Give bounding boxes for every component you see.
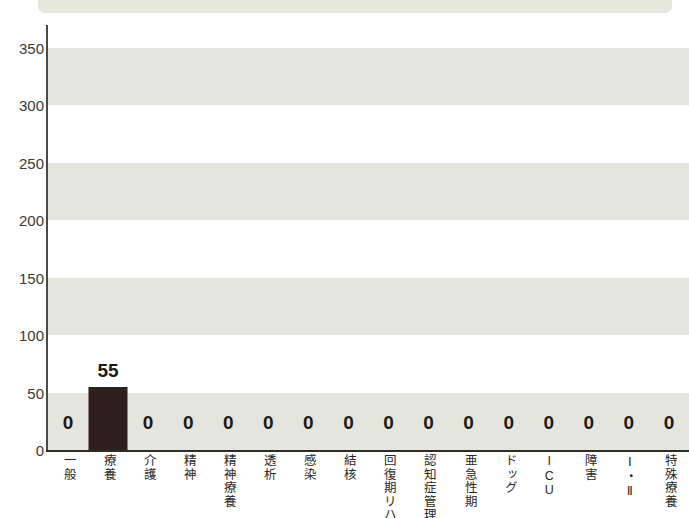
x-category-label: ドッグ [502,454,515,518]
bar-value-label: 0 [223,413,234,432]
bar-slot: 55 [88,0,128,452]
x-category-label: 感染 [302,454,315,518]
bar-slot: 0 [529,0,569,452]
bar-slot: 0 [449,0,489,452]
x-label-slot: 認知症管理 [409,454,449,518]
y-tick-label: 100 [0,327,44,344]
bar-value-label: 0 [543,413,554,432]
bar-slot: 0 [409,0,449,452]
y-tick-label: 150 [0,269,44,286]
x-label-slot: 結核 [328,454,368,518]
x-category-label: 介護 [142,454,155,518]
x-label-slot: 感染 [288,454,328,518]
bar-slot: 0 [489,0,529,452]
bar-slot: 0 [208,0,248,452]
bar-slot: 0 [609,0,649,452]
x-category-label: 結核 [342,454,355,518]
x-category-label: 精神療養 [222,454,235,518]
bar-value-label: 0 [63,413,74,432]
bar-value-label: 0 [143,413,154,432]
bar-slot: 0 [288,0,328,452]
bar-value-label: 55 [98,361,119,380]
x-category-label: 回復期リハ [382,454,395,518]
y-tick-label: 50 [0,384,44,401]
x-label-slot: 精神 [168,454,208,518]
bar-value-label: 0 [664,413,675,432]
x-category-label: 精神 [182,454,195,518]
bar-slot: 0 [48,0,88,452]
bar-value-label: 0 [584,413,595,432]
y-axis-ticks: 050100150200250300350 [0,0,44,518]
x-category-label: 亜急性期 [462,454,475,518]
bar-value-label: 0 [263,413,274,432]
bar-value-label: 0 [624,413,635,432]
y-tick-label: 250 [0,154,44,171]
bar-series: 05500000000000000 [48,0,689,452]
x-label-slot: 特殊療養 [649,454,689,518]
x-label-slot: 透析 [248,454,288,518]
bar-slot: 0 [328,0,368,452]
x-label-slot: 一般 [48,454,88,518]
x-category-label: 特殊療養 [663,454,676,518]
x-category-label: 透析 [262,454,275,518]
x-label-slot: ICU [529,454,569,518]
bar-slot: 0 [369,0,409,452]
bar-slot: 0 [128,0,168,452]
x-label-slot: 亜急性期 [449,454,489,518]
x-label-slot: 精神療養 [208,454,248,518]
x-label-slot: 療養 [88,454,128,518]
y-tick-label: 200 [0,212,44,229]
y-tick-label: 350 [0,39,44,56]
bar-slot: 0 [248,0,288,452]
x-category-label: 認知症管理 [422,454,435,518]
bar-value-label: 0 [423,413,434,432]
bar-chart: 050100150200250300350 05500000000000000 … [0,0,689,518]
bar-value-label: 0 [303,413,314,432]
bar [89,387,128,450]
x-label-slot: 障害 [569,454,609,518]
x-label-slot: 回復期リハ [369,454,409,518]
bar-value-label: 0 [183,413,194,432]
bar-slot: 0 [649,0,689,452]
bar-value-label: 0 [343,413,354,432]
x-category-label: Ⅰ・Ⅱ [623,454,636,518]
bar-slot: 0 [168,0,208,452]
x-label-slot: 介護 [128,454,168,518]
x-category-label: 障害 [582,454,595,518]
bar-value-label: 0 [463,413,474,432]
bar-slot: 0 [569,0,609,452]
bar-value-label: 0 [383,413,394,432]
x-label-slot: Ⅰ・Ⅱ [609,454,649,518]
y-tick-label: 0 [0,442,44,459]
bar-value-label: 0 [503,413,514,432]
x-label-slot: ドッグ [489,454,529,518]
x-category-label: 一般 [62,454,75,518]
x-axis-labels: 一般療養介護精神精神療養透析感染結核回復期リハ認知症管理亜急性期ドッグICU障害… [48,454,689,518]
y-tick-label: 300 [0,97,44,114]
x-category-label: 療養 [102,454,115,518]
x-category-label: ICU [542,454,555,518]
